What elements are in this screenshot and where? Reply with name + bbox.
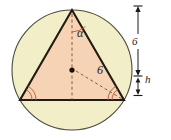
geometry-figure: α 6 6 h — [0, 0, 171, 140]
height-h-label: h — [145, 74, 151, 85]
h-top-arrowhead-icon — [136, 78, 141, 83]
dimension-mid-arrowhead-down-icon — [135, 70, 140, 76]
dimension-top-arrowhead-icon — [135, 6, 140, 12]
dimension-six-label: 6 — [132, 36, 138, 47]
radius-length-label: 6 — [97, 64, 103, 76]
center-point-dot — [69, 67, 74, 72]
apex-angle-label: α — [77, 27, 83, 39]
h-bottom-arrowhead-icon — [136, 90, 141, 96]
figure-canvas — [0, 0, 171, 140]
